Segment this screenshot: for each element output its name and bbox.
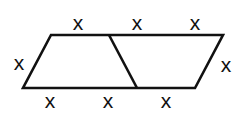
dividing-line bbox=[109, 35, 137, 88]
label-right: x bbox=[221, 53, 232, 76]
label-bottom-1: x bbox=[45, 89, 56, 112]
label-top-1: x bbox=[73, 11, 84, 34]
parallelogram-diagram: x x x x x x x x bbox=[0, 0, 248, 123]
label-bottom-2: x bbox=[103, 89, 114, 112]
label-top-3: x bbox=[190, 11, 201, 34]
label-top-2: x bbox=[132, 11, 143, 34]
label-left: x bbox=[14, 51, 25, 74]
label-bottom-3: x bbox=[161, 89, 172, 112]
